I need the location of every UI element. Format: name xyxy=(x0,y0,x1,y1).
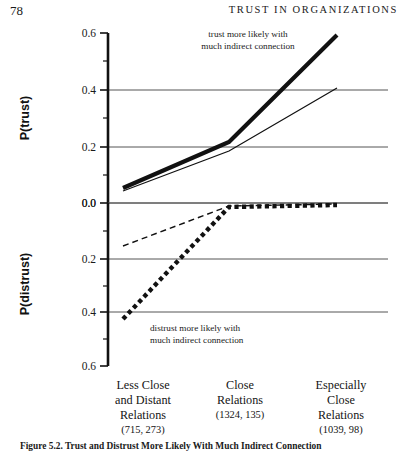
category-label-close: Close Relations (1324, 135) xyxy=(216,378,264,421)
ytick-label-distrust-0.6: 0.6 xyxy=(82,360,97,372)
category-label-especially-close: Especially Close Relations (1039, 98) xyxy=(316,378,368,436)
category-0-line-2: Relations xyxy=(120,408,166,422)
trust-annotation-line2: much indirect connection xyxy=(201,41,295,51)
ytick-label-trust-0.6: 0.6 xyxy=(82,27,97,39)
ytick-label-distrust-0.4: 0.4 xyxy=(82,306,97,318)
ytick-label-distrust-0.0: 0.0 xyxy=(82,197,97,209)
category-2-line-0: Especially xyxy=(316,378,368,392)
ytick-label-trust-0.2: 0.2 xyxy=(82,141,97,153)
category-2-line-2: Relations xyxy=(318,408,364,422)
panel-trust: 0.6 0.4 0.2 0.0 P(trust) trust more like… xyxy=(18,27,388,209)
running-head: 78 TRUST IN ORGANIZATIONS xyxy=(0,3,406,19)
series-distrust-thin-dashed xyxy=(123,204,337,246)
x-axis-category-labels: Less Close and Distant Relations (715, 2… xyxy=(115,378,367,436)
category-label-less-close: Less Close and Distant Relations (715, 2… xyxy=(115,378,171,436)
y-axis-title-distrust: P(distrust) xyxy=(18,253,32,316)
ytick-label-distrust-0.2: 0.2 xyxy=(82,253,97,265)
category-1-line-1: Relations xyxy=(217,393,263,407)
series-trust-thick-solid xyxy=(123,35,337,188)
distrust-annotation-line1: distrust more likely with xyxy=(150,323,240,333)
chart-svg: 0.6 0.4 0.2 0.0 P(trust) trust more like… xyxy=(0,18,406,438)
trust-annotation-line1: trust more likely with xyxy=(208,29,288,39)
panel-distrust: 0.0 0.2 0.4 0.6 P(distrust) distrust mor… xyxy=(18,197,388,372)
category-1-count: (1324, 135) xyxy=(216,409,264,421)
category-0-count: (715, 273) xyxy=(121,424,164,436)
page-number: 78 xyxy=(10,3,23,19)
category-0-line-1: and Distant xyxy=(115,393,171,407)
category-2-line-1: Close xyxy=(327,393,355,407)
category-1-line-0: Close xyxy=(226,378,254,392)
running-head-title: TRUST IN ORGANIZATIONS xyxy=(229,4,398,15)
figure-page: 78 TRUST IN ORGANIZATIONS xyxy=(0,0,406,453)
y-axis-title-trust: P(trust) xyxy=(18,96,32,140)
category-2-count: (1039, 98) xyxy=(319,424,362,436)
figure-caption: Figure 5.2. Trust and Distrust More Like… xyxy=(20,441,400,451)
category-0-line-0: Less Close xyxy=(116,378,169,392)
series-distrust-thick-dotted xyxy=(123,205,337,319)
figure-chart: 0.6 0.4 0.2 0.0 P(trust) trust more like… xyxy=(0,18,406,438)
distrust-annotation-line2: much indirect connection xyxy=(150,335,244,345)
ytick-label-trust-0.4: 0.4 xyxy=(82,84,97,96)
